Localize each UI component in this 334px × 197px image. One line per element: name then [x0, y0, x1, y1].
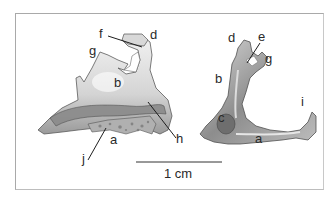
label-d-right: d — [228, 31, 235, 44]
label-i-right: i — [301, 95, 304, 108]
right-specimen — [200, 40, 316, 144]
label-c-right: c — [218, 111, 225, 124]
label-g-left: g — [89, 44, 96, 57]
scale-bar-label: 1 cm — [164, 166, 192, 181]
label-a-right: a — [255, 132, 262, 145]
label-f-left: f — [99, 27, 103, 40]
left-specimen — [38, 34, 172, 134]
label-b-right: b — [215, 72, 222, 85]
label-b-left: b — [114, 76, 121, 89]
label-e-right: e — [258, 30, 265, 43]
label-d-left: d — [150, 28, 157, 41]
label-j-left: j — [82, 152, 85, 165]
label-g-right: g — [265, 52, 272, 65]
label-h-left: h — [176, 132, 183, 145]
label-a-left: a — [110, 133, 117, 146]
